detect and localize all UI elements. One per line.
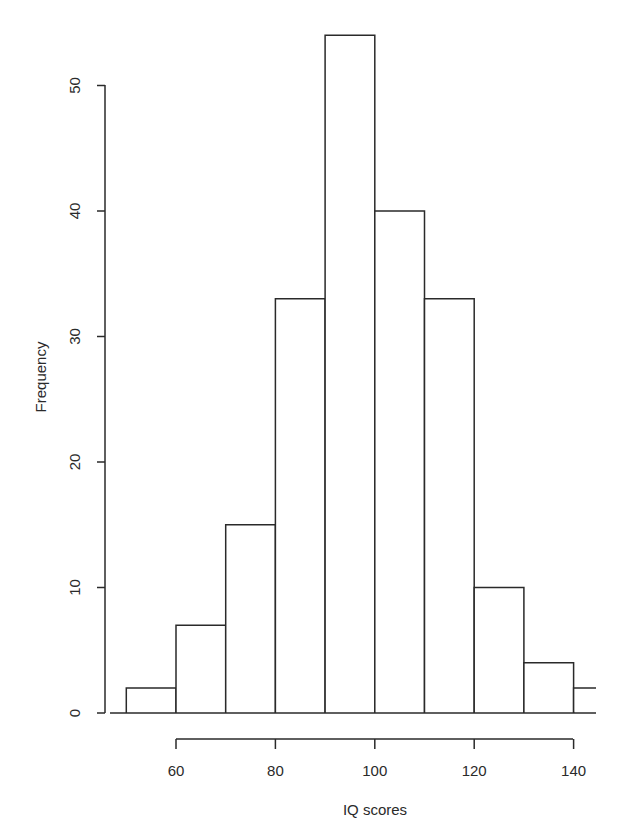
histogram-bar: [425, 299, 475, 713]
histogram-bar: [275, 299, 325, 713]
histogram-bar: [574, 688, 596, 713]
histogram-bar: [474, 588, 524, 714]
y-tick-label: 10: [66, 579, 83, 596]
histogram-bar: [176, 625, 226, 713]
x-axis: 6080100120140: [168, 739, 586, 779]
histogram-chart: 01020304050 6080100120140 IQ scores Freq…: [0, 0, 628, 834]
histogram-bar: [226, 525, 276, 713]
y-axis: 01020304050: [66, 77, 105, 717]
histogram-bar: [375, 211, 425, 713]
x-tick-label: 120: [462, 762, 487, 779]
y-axis-label: Frequency: [32, 341, 49, 412]
histogram-bar: [325, 35, 375, 713]
x-tick-label: 100: [362, 762, 387, 779]
y-tick-label: 30: [66, 328, 83, 345]
y-tick-label: 20: [66, 454, 83, 471]
x-axis-label: IQ scores: [343, 801, 407, 818]
x-tick-label: 80: [267, 762, 284, 779]
histogram-bar: [524, 663, 574, 713]
histogram-bar: [126, 688, 176, 713]
y-tick-label: 0: [66, 709, 83, 717]
x-tick-label: 140: [561, 762, 586, 779]
x-tick-label: 60: [168, 762, 185, 779]
y-tick-label: 50: [66, 77, 83, 94]
y-tick-label: 40: [66, 203, 83, 220]
histogram-bars: [126, 35, 596, 713]
